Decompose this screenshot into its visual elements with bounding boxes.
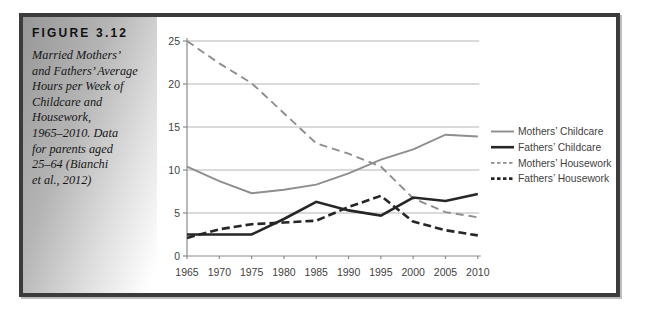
x-tick-label: 1995 [369, 266, 393, 278]
y-tick-label: 20 [168, 78, 180, 90]
legend-label-mothers-housework: Mothers’ Housework [518, 158, 612, 169]
y-tick-label: 25 [168, 35, 180, 47]
x-tick-label: 1985 [305, 266, 329, 278]
y-tick-label: 5 [174, 207, 180, 219]
y-tick-label: 0 [174, 250, 180, 262]
y-tick-label: 10 [168, 164, 180, 176]
x-tick-label: 1965 [175, 266, 199, 278]
legend-label-fathers-childcare: Fathers’ Childcare [518, 142, 601, 153]
chart: 0510152025196519701975198019851990199520… [0, 0, 647, 313]
x-tick-label: 1980 [272, 266, 296, 278]
x-tick-label: 2005 [434, 266, 458, 278]
mothers-housework-line [187, 41, 478, 217]
x-tick-label: 1990 [337, 266, 361, 278]
fathers-housework-line [187, 196, 478, 238]
x-tick-label: 1975 [240, 266, 264, 278]
y-tick-label: 15 [168, 121, 180, 133]
mothers-childcare-line [187, 135, 478, 194]
x-tick-label: 2000 [401, 266, 425, 278]
legend-label-mothers-childcare: Mothers’ Childcare [518, 126, 604, 137]
legend-label-fathers-housework: Fathers’ Housework [518, 173, 610, 184]
x-tick-label: 1970 [208, 266, 232, 278]
x-tick-label: 2010 [466, 266, 490, 278]
